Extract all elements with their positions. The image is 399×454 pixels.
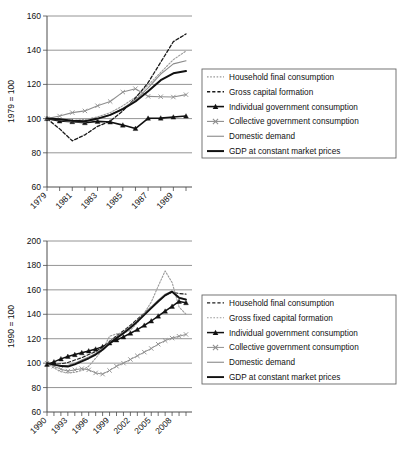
- x-tick-label-1993: 1993: [49, 415, 70, 436]
- x-tick-label-2002: 2002: [111, 415, 132, 436]
- y-axis-title: 1990 = 100: [6, 305, 16, 348]
- y-axis-title: 1979 = 100: [6, 80, 16, 123]
- y-tick-label-160: 160: [27, 285, 41, 295]
- marker-x: [156, 342, 160, 346]
- legend-label-collective-government-consumption: Collective government consumption: [229, 117, 359, 126]
- series-line-household-final-consumption: [47, 292, 186, 364]
- x-tick-label-1989: 1989: [154, 190, 175, 211]
- legend-label-domestic-demand: Domestic demand: [229, 132, 295, 141]
- x-tick-label-1985: 1985: [104, 190, 125, 211]
- chart-top-1979-base: 6080100120140160197919811983198519871989…: [0, 0, 399, 227]
- x-tick-label-1999: 1999: [91, 415, 112, 436]
- x-tick-label-1987: 1987: [129, 190, 150, 211]
- y-tick-label-120: 120: [27, 334, 41, 344]
- marker-x: [114, 364, 118, 368]
- legend-label-gross-fixed-capital-formation: Gross fixed capital formation: [229, 314, 333, 323]
- chart-bottom-svg: 6080100120140160180200199019931996199920…: [0, 227, 399, 454]
- x-tick-label-1979: 1979: [28, 190, 49, 211]
- legend-label-individual-government-consumption: Individual government consumption: [229, 329, 358, 338]
- series-line-household-final-consumption: [47, 51, 186, 120]
- chart-bottom-canvas: 6080100120140160180200199019931996199920…: [6, 236, 396, 436]
- y-tick-label-80: 80: [32, 148, 42, 158]
- chart-bottom-1990-base: 6080100120140160180200199019931996199920…: [0, 227, 399, 454]
- y-tick-label-180: 180: [27, 260, 41, 270]
- x-tick-label-1996: 1996: [70, 415, 91, 436]
- legend-label-gdp-at-constant-market-prices: GDP at constant market prices: [229, 373, 340, 382]
- marker-x: [107, 368, 111, 372]
- chart-top-canvas: 6080100120140160197919811983198519871989…: [6, 11, 396, 211]
- x-tick-label-1983: 1983: [79, 190, 100, 211]
- legend-box: [202, 295, 396, 384]
- series-line-collective-government-consumption: [47, 89, 186, 119]
- chart-page: 6080100120140160197919811983198519871989…: [0, 0, 399, 454]
- y-tick-label-100: 100: [27, 114, 41, 124]
- x-tick-label-1990: 1990: [28, 415, 49, 436]
- legend-label-household-final-consumption: Household final consumption: [229, 73, 335, 82]
- legend-label-gdp-at-constant-market-prices: GDP at constant market prices: [229, 147, 340, 156]
- legend-label-collective-government-consumption: Collective government consumption: [229, 343, 359, 352]
- x-tick-label-2005: 2005: [132, 415, 153, 436]
- legend-label-individual-government-consumption: Individual government consumption: [229, 103, 358, 112]
- marker-x: [128, 357, 132, 361]
- legend-label-household-final-consumption: Household final consumption: [229, 299, 335, 308]
- series-line-individual-government-consumption: [47, 116, 186, 128]
- y-tick-label-80: 80: [32, 383, 42, 393]
- marker-x: [149, 346, 153, 350]
- y-tick-label-160: 160: [27, 11, 41, 21]
- marker-x: [135, 354, 139, 358]
- y-tick-label-140: 140: [27, 45, 41, 55]
- marker-x: [142, 350, 146, 354]
- x-tick-label-1981: 1981: [53, 190, 74, 211]
- y-tick-label-120: 120: [27, 79, 41, 89]
- chart-top-svg: 6080100120140160197919811983198519871989…: [0, 0, 399, 227]
- x-tick-label-2008: 2008: [153, 415, 174, 436]
- y-tick-label-100: 100: [27, 358, 41, 368]
- y-tick-label-200: 200: [27, 236, 41, 246]
- legend-label-gross-capital-formation: Gross capital formation: [229, 88, 314, 97]
- legend-label-domestic-demand: Domestic demand: [229, 358, 295, 367]
- legend-box: [202, 69, 396, 158]
- y-tick-label-140: 140: [27, 309, 41, 319]
